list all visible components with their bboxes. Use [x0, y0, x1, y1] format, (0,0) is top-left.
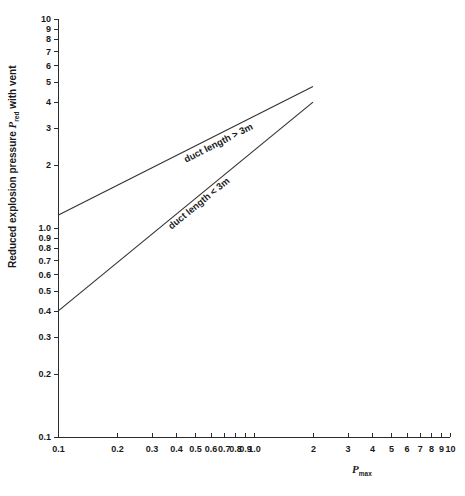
- x-axis-title-text: Pmax: [352, 463, 372, 477]
- y-axis-title: Reduced explosion pressure Pred with ven…: [6, 65, 20, 268]
- y-tick-label: 0.3: [38, 332, 51, 342]
- x-tick-label: 6: [405, 444, 410, 454]
- data-series-group: [58, 87, 313, 312]
- y-tick-label: 0.9: [38, 233, 51, 243]
- x-tick-label: 0.5: [189, 444, 202, 454]
- x-tick-label: 0.4: [170, 444, 183, 454]
- y-axis-title-prefix: Reduced explosion pressure: [7, 129, 18, 269]
- y-tick-label: 2: [46, 160, 51, 170]
- x-axis-title-subscript: max: [359, 470, 372, 477]
- x-tick-label: 2: [311, 444, 316, 454]
- x-tick-label: 0.6: [205, 444, 218, 454]
- x-tick-label: 4: [370, 444, 375, 454]
- x-axis-tick-labels: 0.10.20.30.40.50.60.70.80.91.02345678910: [52, 444, 455, 454]
- y-tick-label: 0.5: [38, 286, 51, 296]
- y-tick-label: 0.8: [38, 243, 51, 253]
- series-label-text: duct length < 3m: [166, 175, 232, 232]
- x-tick-label: 8: [429, 444, 434, 454]
- y-tick-label: 5: [46, 77, 51, 87]
- chart-figure: 0.10.20.30.40.50.60.70.80.91.02345678910…: [0, 0, 465, 496]
- y-tick-label: 0.6: [38, 270, 51, 280]
- series-label-text: duct length > 3m: [182, 121, 255, 165]
- series-annotation-group: duct length > 3mduct length < 3m: [166, 121, 255, 232]
- y-axis-title-text: Reduced explosion pressure Pred with ven…: [6, 65, 20, 268]
- x-tick-label: 0.1: [52, 444, 65, 454]
- y-tick-label: 10: [41, 14, 51, 24]
- axes-group: [59, 19, 451, 438]
- y-tick-label: 6: [46, 61, 51, 71]
- y-axis-ticks: [54, 20, 58, 438]
- y-axis-tick-labels: 0.10.20.30.40.50.60.70.80.91.02345678910: [38, 14, 51, 442]
- data-line-upper: [58, 87, 313, 216]
- y-tick-label: 7: [46, 47, 51, 57]
- x-tick-label: 0.2: [111, 444, 124, 454]
- y-tick-label: 1.0: [38, 223, 51, 233]
- log-log-line-chart: 0.10.20.30.40.50.60.70.80.91.02345678910…: [0, 0, 465, 496]
- x-tick-label: 3: [346, 444, 351, 454]
- x-tick-label: 9: [439, 444, 444, 454]
- series-label-upper: duct length > 3m: [182, 121, 255, 165]
- y-tick-label: 9: [46, 24, 51, 34]
- x-tick-label: 5: [389, 444, 394, 454]
- y-tick-label: 0.7: [38, 256, 51, 266]
- y-tick-label: 8: [46, 34, 51, 44]
- x-tick-label: 1.0: [248, 444, 261, 454]
- x-axis-ticks: [59, 433, 451, 437]
- y-tick-label: 0.2: [38, 369, 51, 379]
- y-tick-label: 3: [46, 123, 51, 133]
- x-axis-title: Pmax: [352, 463, 372, 477]
- x-tick-label: 0.3: [146, 444, 159, 454]
- x-tick-label: 10: [445, 444, 455, 454]
- y-tick-label: 4: [46, 97, 51, 107]
- y-tick-label: 0.1: [38, 432, 51, 442]
- y-tick-label: 0.4: [38, 306, 51, 316]
- y-axis-title-suffix: with vent: [7, 65, 18, 112]
- y-axis-title-subscript: red: [13, 112, 20, 122]
- series-label-lower: duct length < 3m: [166, 175, 232, 232]
- x-tick-label: 7: [418, 444, 423, 454]
